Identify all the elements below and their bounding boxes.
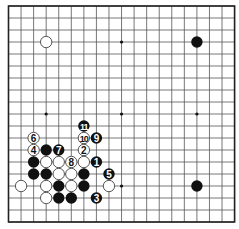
black-stone-disc — [66, 192, 77, 203]
black-stone-disc — [78, 168, 89, 179]
black-stone-disc — [191, 36, 202, 47]
black-stone-disc — [40, 168, 51, 179]
black-stone — [78, 180, 89, 191]
white-stone-disc — [66, 180, 77, 191]
black-stone-disc — [53, 180, 64, 191]
white-stone: 8 — [66, 156, 77, 167]
black-stone: 5 — [103, 168, 114, 179]
white-stone: 10 — [78, 132, 89, 143]
star-point — [195, 112, 198, 115]
white-stone: 6 — [28, 132, 39, 143]
move-number-label: 6 — [31, 133, 37, 144]
white-stone — [40, 36, 51, 47]
white-stone — [40, 192, 51, 203]
black-stone — [191, 180, 202, 191]
white-stone-disc — [103, 180, 114, 191]
go-board: 1161094728153 — [0, 0, 239, 229]
white-stone — [103, 180, 114, 191]
black-stone — [66, 192, 77, 203]
black-stone-disc — [28, 156, 39, 167]
black-stone: 7 — [53, 144, 64, 155]
black-stone-disc — [40, 144, 51, 155]
move-number-label: 4 — [31, 145, 37, 156]
black-stone — [53, 180, 64, 191]
white-stone-disc — [53, 156, 64, 167]
move-number-label: 1 — [94, 157, 100, 168]
move-number-label: 5 — [106, 169, 112, 180]
move-number-label: 9 — [94, 133, 100, 144]
white-stone: 2 — [78, 144, 89, 155]
black-stone — [191, 36, 202, 47]
black-stone: 3 — [91, 192, 102, 203]
white-stone — [15, 180, 26, 191]
black-stone-disc — [53, 192, 64, 203]
move-number-label: 11 — [80, 122, 89, 132]
black-stone — [40, 144, 51, 155]
move-number-label: 8 — [69, 157, 75, 168]
star-point — [120, 112, 123, 115]
white-stone — [53, 168, 64, 179]
black-stone — [40, 168, 51, 179]
star-point — [120, 40, 123, 43]
star-point — [45, 112, 48, 115]
white-stone — [53, 156, 64, 167]
white-stone-disc — [66, 168, 77, 179]
white-stone-disc — [40, 192, 51, 203]
move-number-label: 2 — [81, 145, 87, 156]
white-stone-disc — [15, 180, 26, 191]
black-stone-disc — [78, 180, 89, 191]
black-stone-disc — [28, 168, 39, 179]
black-stone — [28, 156, 39, 167]
white-stone — [40, 180, 51, 191]
star-point — [120, 184, 123, 187]
black-stone — [78, 168, 89, 179]
white-stone — [40, 156, 51, 167]
white-stone-disc — [53, 168, 64, 179]
white-stone — [66, 168, 77, 179]
black-stone — [28, 168, 39, 179]
white-stone — [78, 156, 89, 167]
white-stone-disc — [40, 156, 51, 167]
white-stone — [66, 180, 77, 191]
black-stone: 1 — [91, 156, 102, 167]
black-stone: 11 — [78, 120, 89, 131]
white-stone-disc — [40, 36, 51, 47]
black-stone: 9 — [91, 132, 102, 143]
move-number-label: 10 — [80, 134, 89, 144]
white-stone: 4 — [28, 144, 39, 155]
move-number-label: 7 — [56, 145, 62, 156]
black-stone-disc — [191, 180, 202, 191]
white-stone-disc — [78, 156, 89, 167]
move-number-label: 3 — [94, 193, 100, 204]
black-stone — [53, 192, 64, 203]
white-stone-disc — [40, 180, 51, 191]
